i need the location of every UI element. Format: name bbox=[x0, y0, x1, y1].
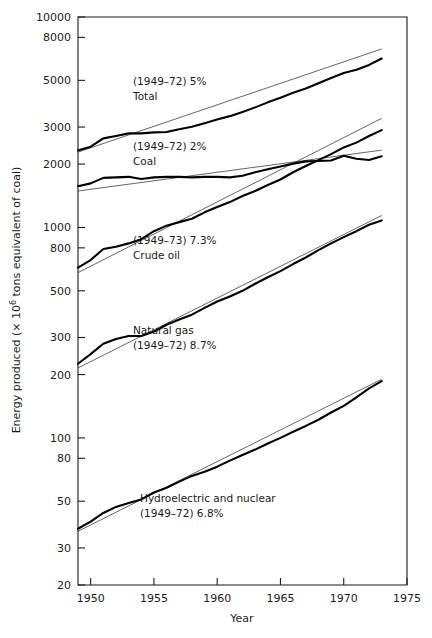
y-tick-label: 30 bbox=[57, 542, 71, 555]
series-annotation: (1949–72) 5% bbox=[133, 75, 207, 87]
figure-root: 2030508010020030050080010002000300050008… bbox=[0, 0, 432, 638]
x-tick-label: 1960 bbox=[203, 592, 231, 605]
y-tick-label: 2000 bbox=[43, 158, 71, 171]
series-annotation: Coal bbox=[133, 155, 156, 167]
y-tick-label: 20 bbox=[57, 579, 71, 592]
series-annotation: (1949–72) 6.8% bbox=[140, 507, 224, 519]
series-annotation: (1949–72) 2% bbox=[133, 140, 207, 152]
y-tick-label: 10000 bbox=[36, 11, 71, 24]
y-tick-label: 1000 bbox=[43, 221, 71, 234]
series-annotation: Hydroelectric and nuclear bbox=[140, 492, 276, 504]
y-tick-label: 500 bbox=[50, 285, 71, 298]
x-tick-label: 1950 bbox=[77, 592, 105, 605]
y-axis-title-suffix: tons equivalent of coal) bbox=[10, 167, 23, 300]
x-tick-label: 1965 bbox=[266, 592, 294, 605]
series-annotation: Total bbox=[132, 90, 158, 102]
y-axis-title: Energy produced (× 106 tons equivalent o… bbox=[9, 167, 23, 434]
y-tick-label: 50 bbox=[57, 495, 71, 508]
y-tick-label: 300 bbox=[50, 331, 71, 344]
y-tick-label: 80 bbox=[57, 452, 71, 465]
y-tick-label: 8000 bbox=[43, 31, 71, 44]
x-tick-label: 1970 bbox=[330, 592, 358, 605]
y-tick-label: 3000 bbox=[43, 121, 71, 134]
y-tick-label: 100 bbox=[50, 432, 71, 445]
y-tick-label: 200 bbox=[50, 369, 71, 382]
x-tick-label: 1975 bbox=[393, 592, 421, 605]
y-axis-title-prefix: Energy produced (× 10 bbox=[10, 305, 23, 433]
log-line-chart: 2030508010020030050080010002000300050008… bbox=[0, 0, 432, 638]
series-annotation: Natural gas bbox=[133, 324, 194, 336]
y-tick-label: 800 bbox=[50, 242, 71, 255]
y-tick-label: 5000 bbox=[43, 74, 71, 87]
x-tick-label: 1955 bbox=[140, 592, 168, 605]
series-annotation: (1949–73) 7.3% bbox=[133, 234, 217, 246]
series-annotation: (1949–72) 8.7% bbox=[133, 339, 217, 351]
svg-text:Energy produced (× 106 tons eq: Energy produced (× 106 tons equivalent o… bbox=[9, 167, 23, 434]
x-axis-title: Year bbox=[229, 612, 254, 625]
series-annotation: Crude oil bbox=[133, 249, 180, 261]
